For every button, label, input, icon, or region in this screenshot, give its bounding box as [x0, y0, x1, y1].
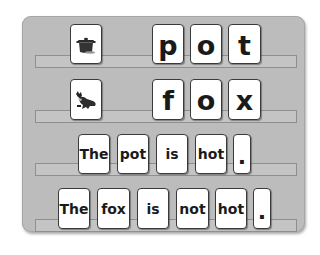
word-card-the[interactable]: The [78, 134, 110, 174]
letter: p [158, 30, 177, 59]
fox-icon [74, 90, 98, 110]
word-card-not[interactable]: not [176, 188, 209, 229]
letter: o [197, 85, 216, 114]
period-card[interactable]: . [253, 188, 271, 229]
word-card-is[interactable]: is [156, 134, 188, 174]
word-card-hot[interactable]: hot [215, 188, 247, 229]
word: hot [218, 202, 244, 216]
letter: x [236, 85, 253, 114]
word-card-fox[interactable]: fox [97, 188, 130, 229]
word-card-the[interactable]: The [58, 188, 90, 229]
word-card-pot[interactable]: pot [117, 134, 149, 174]
word: not [179, 202, 205, 216]
pot-icon [75, 33, 97, 55]
word: pot [120, 147, 146, 161]
letter-card-p[interactable]: p [152, 24, 184, 64]
letter-card-o[interactable]: o [190, 79, 222, 120]
word: The [79, 147, 108, 161]
letter: f [162, 85, 174, 114]
letter-card-f[interactable]: f [152, 79, 184, 120]
letter-card-x[interactable]: x [228, 79, 261, 120]
pot-picture-card[interactable] [70, 24, 102, 64]
word: fox [101, 202, 126, 216]
word: hot [198, 147, 224, 161]
letter-card-o[interactable]: o [190, 24, 222, 64]
letter: o [197, 30, 216, 59]
word: is [165, 147, 178, 161]
period: . [238, 146, 246, 168]
word: The [59, 202, 88, 216]
fox-picture-card[interactable] [70, 79, 102, 120]
word-card-hot[interactable]: hot [195, 134, 227, 174]
word-card-is[interactable]: is [137, 188, 169, 229]
period-card[interactable]: . [233, 134, 251, 174]
period: . [258, 201, 266, 223]
word: is [146, 202, 159, 216]
letter-card-t[interactable]: t [228, 24, 261, 64]
letter: t [238, 30, 251, 59]
